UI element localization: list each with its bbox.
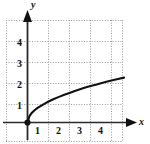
arrow-up-icon [23, 10, 32, 22]
y-tick-label-4: 4 [17, 38, 22, 48]
graph-figure: 4 3 2 1 1 2 3 4 x y [0, 0, 150, 144]
x-tick-label-4: 4 [98, 126, 103, 136]
sqrt-curve [28, 78, 125, 123]
y-axis-label: y [31, 0, 35, 10]
x-tick-label-1: 1 [35, 126, 40, 136]
arrow-right-icon [126, 118, 137, 127]
y-tick-label-1: 1 [17, 101, 22, 111]
origin-dot [24, 119, 30, 125]
plot-area [0, 0, 150, 144]
x-tick-label-3: 3 [77, 126, 82, 136]
y-tick-label-2: 2 [17, 80, 22, 90]
x-axis-label: x [139, 117, 144, 127]
x-tick-label-2: 2 [56, 126, 61, 136]
y-tick-label-3: 3 [17, 59, 22, 69]
grid-lines [6, 20, 123, 142]
